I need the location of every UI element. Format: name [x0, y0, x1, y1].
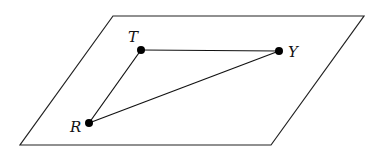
label-y: Y — [288, 43, 300, 61]
segment-rt — [89, 50, 141, 123]
point-y — [275, 47, 283, 55]
plane-triangle-diagram: T Y R — [0, 0, 378, 157]
segment-yr — [89, 51, 279, 123]
point-r — [85, 119, 93, 127]
label-r: R — [69, 118, 81, 136]
label-t: T — [128, 28, 139, 46]
point-t — [137, 46, 145, 54]
segment-ty — [141, 50, 279, 51]
